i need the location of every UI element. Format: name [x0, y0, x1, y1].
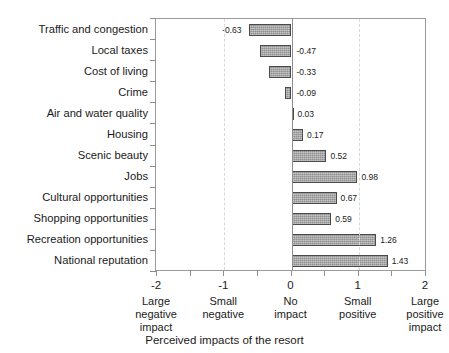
x-axis-tick-description: Largepositiveimpact — [387, 295, 449, 334]
zero-axis-line — [292, 19, 293, 270]
category-label: Cultural opportunities — [42, 191, 148, 203]
x-axis-tick-description: Smallnegative — [185, 295, 261, 321]
y-axis-tick — [150, 81, 156, 82]
bar-value-label: -0.33 — [297, 67, 316, 77]
y-axis-tick — [150, 250, 156, 251]
category-label: Traffic and congestion — [39, 23, 148, 35]
bar-value-label: 1.26 — [380, 235, 397, 245]
x-axis-tick-description: Noimpact — [253, 295, 329, 321]
x-axis-tick — [291, 271, 292, 276]
bar-value-label: 0.67 — [341, 193, 358, 203]
x-axis-tick-description: Smallpositive — [320, 295, 396, 321]
y-axis-tick — [150, 229, 156, 230]
bar-chart: Traffic and congestionLocal taxesCost of… — [0, 0, 449, 353]
y-axis-tick — [150, 208, 156, 209]
y-axis-tick — [150, 187, 156, 188]
x-axis-tick-description-line: Large — [118, 295, 194, 308]
bar — [249, 24, 291, 36]
x-axis-tick-description-line: positive — [387, 308, 449, 321]
category-label: Jobs — [124, 170, 148, 182]
bar — [292, 150, 327, 162]
x-axis-tick-description-line: Small — [320, 295, 396, 308]
category-axis-labels: Traffic and congestionLocal taxesCost of… — [0, 18, 152, 271]
x-axis-tick-description-line: negative — [118, 308, 194, 321]
bar-value-label: -0.09 — [297, 88, 316, 98]
bar-value-label: -0.47 — [297, 46, 316, 56]
x-axis-tick — [190, 271, 191, 276]
category-label: Scenic beauty — [78, 149, 148, 161]
category-label: Cost of living — [84, 65, 148, 77]
y-axis-tick — [150, 18, 156, 19]
x-axis-tick — [223, 271, 224, 276]
x-axis-tick-description-line: positive — [320, 308, 396, 321]
bar — [292, 171, 358, 183]
x-axis-tick-label: 2 — [395, 279, 449, 292]
category-label: Shopping opportunities — [34, 212, 148, 224]
bar — [292, 192, 337, 204]
bar — [292, 213, 332, 225]
x-axis-tick-description-line: No — [253, 295, 329, 308]
x-axis-tick-label: -2 — [126, 279, 186, 292]
x-axis-tick — [391, 271, 392, 276]
x-axis-tick-label: 0 — [261, 279, 321, 292]
bars-layer: -0.63-0.47-0.33-0.090.030.170.520.980.67… — [156, 19, 425, 270]
category-label: Local taxes — [91, 44, 148, 56]
x-axis-tick-description-line: impact — [253, 308, 329, 321]
category-label: Recreation opportunities — [27, 233, 148, 245]
bar-value-label: 1.43 — [392, 256, 409, 266]
bar-value-label: 0.59 — [335, 214, 352, 224]
y-axis-tick — [150, 39, 156, 40]
x-axis-tick-description-line: Small — [185, 295, 261, 308]
bar — [260, 45, 292, 57]
x-axis-tick-description-line: negative — [185, 308, 261, 321]
gridline — [359, 19, 360, 270]
category-label: Air and water quality — [47, 107, 148, 119]
x-axis-title: Perceived impacts of the resort — [0, 333, 449, 347]
category-label: National reputation — [54, 254, 148, 266]
x-axis-tick — [425, 271, 426, 276]
y-axis-tick — [150, 145, 156, 146]
y-axis-tick — [150, 123, 156, 124]
bar-value-label: 0.17 — [307, 130, 324, 140]
x-axis-tick — [358, 271, 359, 276]
gridline — [224, 19, 225, 270]
y-axis-tick — [150, 60, 156, 61]
bar-value-label: 0.52 — [330, 151, 347, 161]
x-axis-tick — [156, 271, 157, 276]
x-axis-tick-label: -1 — [193, 279, 253, 292]
bar — [292, 234, 377, 246]
category-label: Crime — [118, 86, 148, 98]
plot-area: -0.63-0.47-0.33-0.090.030.170.520.980.67… — [155, 18, 426, 271]
x-axis-tick — [324, 271, 325, 276]
bar-value-label: 0.98 — [361, 172, 378, 182]
category-label: Housing — [107, 128, 148, 140]
x-axis-tick-description-line: Large — [387, 295, 449, 308]
y-axis-tick — [150, 166, 156, 167]
bar — [269, 66, 291, 78]
bar-value-label: 0.03 — [298, 109, 315, 119]
y-axis-tick — [150, 102, 156, 103]
x-axis-tick-label: 1 — [328, 279, 388, 292]
x-axis-tick — [257, 271, 258, 276]
bar — [292, 255, 388, 267]
x-axis-tick-description: Largenegativeimpact — [118, 295, 194, 334]
bar — [292, 129, 303, 141]
